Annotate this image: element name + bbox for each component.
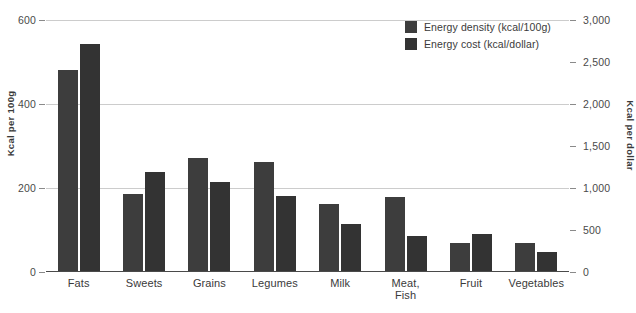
y-axis-right-tickmark [570,188,576,189]
y-axis-left-title: Kcal per 100g [5,64,16,184]
bar [210,182,230,272]
bar [407,236,427,272]
y-axis-right-title: Kcal per dollar [625,76,636,196]
plot-area [46,20,569,272]
x-axis-baseline [46,271,569,273]
y-axis-right-tickmark [570,146,576,147]
bar-group [319,20,361,272]
bar [58,70,78,272]
y-axis-left-tickmark [39,104,45,105]
y-axis-right-tick-label: 0 [583,267,627,278]
bar [80,44,100,272]
bar [515,243,535,272]
bar [537,252,557,272]
bar-group [515,20,557,272]
bar [450,243,470,272]
legend-item[interactable]: Energy density (kcal/100g) [405,20,551,33]
legend-item[interactable]: Energy cost (kcal/dollar) [405,37,551,50]
legend-swatch [405,21,417,33]
legend-swatch [405,38,417,50]
x-axis-category-label: Vegetables [504,278,569,290]
bar [254,162,274,272]
y-axis-right-tickmark [570,20,576,21]
bar [188,158,208,272]
bar-group [58,20,100,272]
bar [472,234,492,272]
y-axis-left-tickmark [39,20,45,21]
y-axis-left-tick-label: 0 [2,267,36,278]
y-axis-left-tickmark [39,188,45,189]
legend-label: Energy cost (kcal/dollar) [424,38,539,50]
y-axis-right-tickmark [570,62,576,63]
bar-group [450,20,492,272]
y-axis-right-tick-label: 500 [583,225,627,236]
y-axis-right-tick-label: 1,000 [583,183,627,194]
y-axis-right-tickmark [570,104,576,105]
bar-group [188,20,230,272]
bar [319,204,339,272]
y-axis-right-tick-label: 1,500 [583,141,627,152]
bar-group [385,20,427,272]
x-axis-category-label: Meat, Fish [373,278,438,301]
bar-group [123,20,165,272]
bar [123,194,143,272]
bar-group [254,20,296,272]
y-axis-right-tickmark [570,230,576,231]
y-axis-right-tick-label: 2,000 [583,99,627,110]
x-axis-category-label: Fruit [438,278,503,290]
x-axis-category-label: Fats [46,278,111,290]
bar [385,197,405,272]
x-axis-category-label: Sweets [111,278,176,290]
y-axis-right-tick-label: 2,500 [583,57,627,68]
x-axis-category-label: Grains [177,278,242,290]
chart-legend: Energy density (kcal/100g)Energy cost (k… [405,20,551,54]
x-axis-category-label: Legumes [242,278,307,290]
legend-label: Energy density (kcal/100g) [424,21,551,33]
bar [145,172,165,272]
bar [276,196,296,272]
y-axis-left-tick-label: 400 [2,99,36,110]
y-axis-right-tick-label: 3,000 [583,15,627,26]
y-axis-left-tick-label: 600 [2,15,36,26]
y-axis-left-tickmark [39,272,45,273]
bar [341,224,361,272]
y-axis-left-tick-label: 200 [2,183,36,194]
x-axis-category-label: Milk [308,278,373,290]
y-axis-right-tickmark [570,272,576,273]
